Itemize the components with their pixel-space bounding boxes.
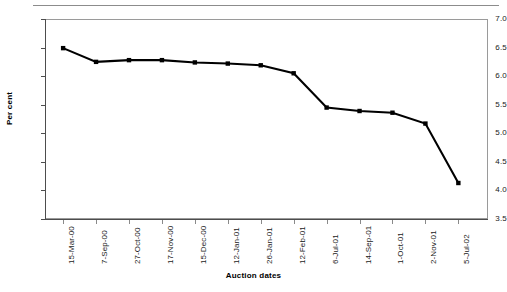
- y-axis-tick-mark: [41, 162, 45, 163]
- x-axis-tick-label: 17-Nov-00: [166, 226, 175, 264]
- y-axis-tick-mark: [41, 19, 45, 20]
- x-axis-tick-mark: [458, 220, 459, 224]
- y-axis-tick-label: 7.0: [467, 15, 507, 23]
- y-axis-tick-mark: [41, 48, 45, 49]
- x-axis-tick-mark: [195, 220, 196, 224]
- y-axis-tick-label: 5.0: [467, 129, 507, 137]
- x-axis-tick-label: 1-Oct-01: [396, 232, 405, 264]
- x-axis-tick-mark: [96, 220, 97, 224]
- x-axis-tick-mark: [162, 220, 163, 224]
- x-axis-tick-label: 6-Jul-01: [331, 234, 340, 264]
- y-axis-tick-mark: [41, 105, 45, 106]
- y-axis-tick-label: 5.5: [467, 101, 507, 109]
- x-axis-tick-label: 7-Sep-00: [100, 230, 109, 264]
- y-axis-tick-label: 4.0: [467, 186, 507, 194]
- x-axis-tick-label: 14-Sep-01: [364, 226, 373, 264]
- y-axis-tick-mark: [41, 219, 45, 220]
- plot-area-frame: [45, 19, 488, 219]
- y-axis-tick-label: 3.5: [467, 215, 507, 223]
- y-axis-tick-label: 6.0: [467, 72, 507, 80]
- x-axis-tick-mark: [294, 220, 295, 224]
- x-axis-tick-mark: [261, 220, 262, 224]
- y-axis-tick-label: 6.5: [467, 44, 507, 52]
- y-axis-tick-mark: [41, 76, 45, 77]
- x-axis-tick-label: 15-Dec-00: [199, 226, 208, 264]
- chart-figure: Per cent Auction dates 7.06.56.05.55.04.…: [0, 0, 507, 292]
- x-axis-tick-label: 12-Jan-01: [232, 227, 241, 264]
- x-axis-title: Auction dates: [0, 271, 507, 280]
- y-axis-title: Per cent: [5, 81, 14, 137]
- x-axis-tick-label: 12-Feb-01: [298, 226, 307, 264]
- x-axis-tick-mark: [228, 220, 229, 224]
- top-divider-rule: [33, 5, 499, 6]
- x-axis-tick-mark: [129, 220, 130, 224]
- y-axis-tick-label: 4.5: [467, 158, 507, 166]
- x-axis-tick-mark: [392, 220, 393, 224]
- x-axis-tick-label: 2-Nov-01: [429, 230, 438, 264]
- y-axis-tick-mark: [41, 133, 45, 134]
- x-axis-spine: [45, 219, 488, 220]
- x-axis-tick-label: 5-Jul-02: [462, 234, 471, 264]
- x-axis-tick-mark: [327, 220, 328, 224]
- x-axis-tick-mark: [425, 220, 426, 224]
- x-axis-tick-label: 27-Oct-00: [133, 228, 142, 264]
- x-axis-tick-label: 15-Mar-00: [67, 226, 76, 264]
- x-axis-tick-label: 26-Jan-01: [265, 227, 274, 264]
- y-axis-spine: [45, 19, 46, 220]
- x-axis-tick-mark: [360, 220, 361, 224]
- y-axis-tick-mark: [41, 190, 45, 191]
- x-axis-tick-mark: [63, 220, 64, 224]
